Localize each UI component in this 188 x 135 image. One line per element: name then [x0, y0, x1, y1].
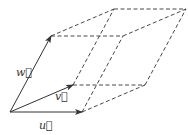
- label-v: v⃗: [55, 90, 68, 103]
- parallelepiped-diagram: w⃗ v⃗ u⃗: [0, 0, 188, 135]
- edge-u-to-uv: [82, 85, 145, 112]
- label-w: w⃗: [16, 66, 32, 79]
- edge-w-to-vw: [51, 9, 114, 36]
- edge-uv-to-uvw: [145, 9, 186, 85]
- edge-uw-to-uvw: [123, 9, 186, 36]
- edge-u-to-uw: [82, 36, 123, 112]
- dashed-edges: [51, 9, 186, 112]
- edge-v-to-vw: [73, 9, 114, 85]
- diagram-canvas: w⃗ v⃗ u⃗: [0, 0, 188, 135]
- label-u: u⃗: [39, 119, 53, 132]
